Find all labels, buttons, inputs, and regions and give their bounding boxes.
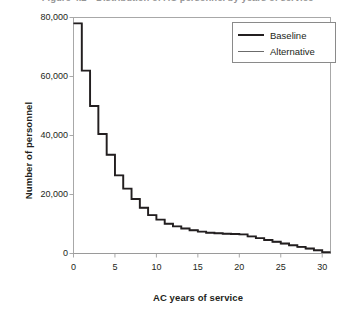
chart-figure: Figure 4.2—Distribution of AC personnel … xyxy=(0,0,355,315)
legend-item-alternative: Alternative xyxy=(238,43,315,59)
legend-swatch-baseline-icon xyxy=(238,34,264,36)
legend-item-baseline: Baseline xyxy=(238,27,306,43)
legend-swatch-alternative-icon xyxy=(238,51,264,52)
legend-label-baseline: Baseline xyxy=(270,30,306,41)
chart-legend: Baseline Alternative xyxy=(232,22,336,63)
legend-label-alternative: Alternative xyxy=(270,46,315,57)
